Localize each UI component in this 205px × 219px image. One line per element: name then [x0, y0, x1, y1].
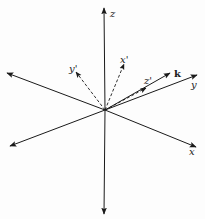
- coordinate-axes-figure: zyxkx'y'z': [0, 0, 205, 219]
- axis-x-prime: [105, 64, 124, 110]
- axis-label-z: z: [109, 8, 116, 19]
- axis-z-prime: [105, 88, 146, 110]
- axis-z-neg: [104, 110, 105, 214]
- axis-x: [105, 110, 196, 147]
- axis-y-neg: [10, 110, 105, 146]
- axis-label-y-prime: y': [68, 63, 77, 74]
- axis-label-y: y: [190, 79, 197, 90]
- axis-label-x: x: [189, 146, 195, 157]
- axis-z: [104, 8, 105, 110]
- axes-diagram: zyxkx'y'z': [0, 0, 205, 219]
- axis-label-z-prime: z': [143, 75, 152, 86]
- axis-x-neg: [7, 73, 105, 110]
- axis-label-k: k: [174, 68, 182, 79]
- axis-label-x-prime: x': [120, 54, 128, 65]
